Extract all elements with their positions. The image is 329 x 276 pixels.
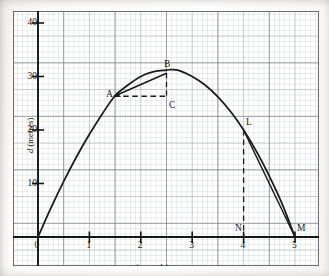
figure-canvas: 40 30 20 10 0 1 2 3 4 5 A B C L M N d (m… [0,0,329,276]
scan-vignette [0,0,329,276]
